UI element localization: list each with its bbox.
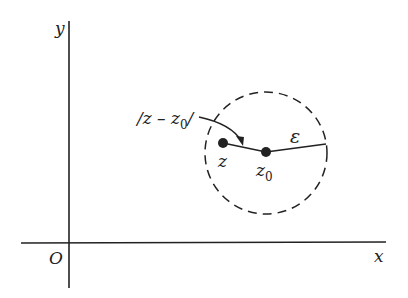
- epsilon-label: ε: [290, 127, 300, 146]
- point-z0: [261, 147, 271, 157]
- diagram-canvas: y x O /z – z0/ z z0 ε: [0, 0, 408, 298]
- origin-label: O: [49, 250, 63, 267]
- curved-arrow: [199, 117, 242, 142]
- y-axis-label: y: [55, 20, 65, 37]
- arrowhead-icon: [236, 136, 244, 146]
- distance-label: /z – z0/: [137, 110, 193, 127]
- x-axis: [21, 242, 386, 243]
- distance-segment: [223, 143, 266, 152]
- point-z-label: z: [218, 153, 227, 170]
- x-axis-label: x: [374, 248, 384, 265]
- point-z0-label: z0: [256, 162, 273, 179]
- point-z: [218, 138, 228, 148]
